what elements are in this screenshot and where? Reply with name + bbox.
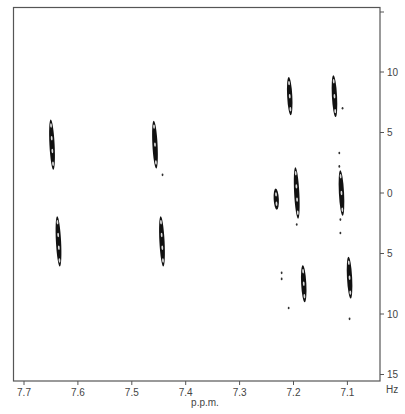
- minor-contour-dots: [162, 107, 351, 320]
- contour-peak: [293, 167, 301, 219]
- contour-peaks: [48, 75, 353, 302]
- contour-dot: [338, 152, 340, 155]
- contour-dot: [338, 165, 340, 168]
- y-tick-label: 10: [387, 67, 399, 78]
- y-axis-unit: Hz: [386, 384, 398, 395]
- x-tick-label: 7.3: [233, 387, 247, 398]
- contour-peak: [286, 77, 293, 115]
- contour-dot: [342, 107, 344, 110]
- x-tick-label: 7.2: [287, 387, 301, 398]
- y-tick-label: 5: [387, 248, 393, 259]
- x-tick-label: 7.7: [17, 387, 31, 398]
- contour-dot: [288, 307, 290, 310]
- y-tick-label: 0: [387, 188, 393, 199]
- y-tick-label: 5: [387, 127, 393, 138]
- contour-peak: [48, 119, 56, 170]
- x-axis-ticks: 7.77.67.57.47.37.27.1: [17, 381, 355, 398]
- y-tick-label: 10: [387, 309, 399, 320]
- contour-peak: [346, 257, 353, 299]
- y-tick-label: 15: [387, 369, 399, 380]
- contour-dot: [281, 278, 283, 281]
- contour-dot: [339, 232, 341, 235]
- x-axis-title: p.p.m.: [191, 397, 219, 408]
- contour-peak: [158, 216, 166, 267]
- contour-peak: [331, 75, 338, 117]
- x-tick-label: 7.6: [71, 387, 85, 398]
- contour-dot: [349, 318, 351, 321]
- x-tick-label: 7.5: [125, 387, 139, 398]
- contour-peak: [151, 121, 159, 169]
- contour-dot: [162, 174, 164, 177]
- nmr-contour-plot: 7.77.67.57.47.37.27.1 105051015 p.p.m. H…: [0, 0, 405, 414]
- x-tick-label: 7.1: [340, 387, 354, 398]
- contour-peak: [55, 216, 63, 267]
- contour-dot: [339, 218, 341, 221]
- contour-dot: [281, 272, 283, 275]
- y-axis-ticks: 105051015: [380, 12, 399, 380]
- contour-peak: [338, 170, 346, 216]
- contour-peak: [300, 265, 307, 302]
- plot-frame: [14, 8, 381, 382]
- contour-peak: [273, 188, 279, 210]
- contour-dot: [296, 223, 298, 226]
